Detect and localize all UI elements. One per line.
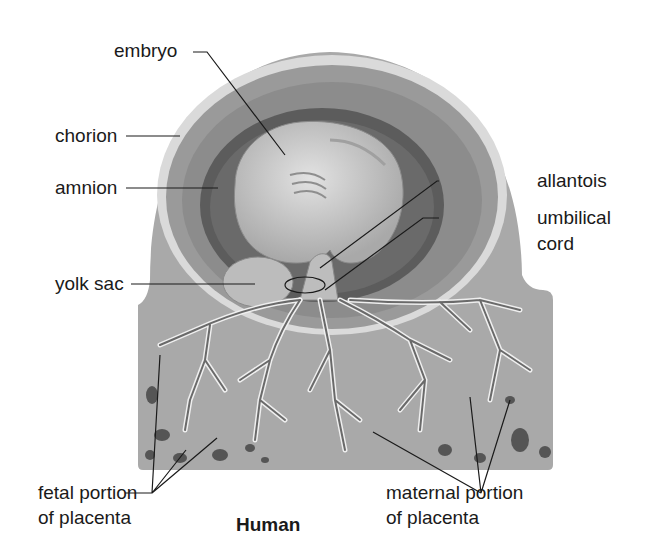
yolk-sac-shape: [223, 257, 293, 307]
label-yolk-sac: yolk sac: [55, 273, 124, 295]
label-maternal-placenta-1: maternal portion: [386, 482, 523, 504]
label-amnion: amnion: [55, 177, 117, 199]
diagram-illustration: [0, 0, 652, 540]
label-allantois: allantois: [537, 170, 607, 192]
diagram-title: Human: [236, 514, 300, 536]
label-umbilical-cord-2: cord: [537, 233, 574, 255]
label-fetal-placenta-2: of placenta: [38, 507, 131, 529]
label-chorion: chorion: [55, 125, 117, 147]
label-fetal-placenta-1: fetal portion: [38, 482, 137, 504]
label-embryo: embryo: [114, 40, 177, 62]
embryo-placenta-diagram: embryo chorion amnion yolk sac allantois…: [0, 0, 652, 540]
label-umbilical-cord-1: umbilical: [537, 207, 611, 229]
label-maternal-placenta-2: of placenta: [386, 507, 479, 529]
embryo: [234, 121, 403, 263]
